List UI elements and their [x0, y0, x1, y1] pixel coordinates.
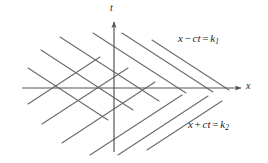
diagram-canvas — [0, 0, 268, 163]
upper-equals: = — [201, 32, 210, 44]
x-axis-label: x — [246, 80, 250, 91]
upper-operator: − — [183, 32, 192, 44]
lower-subscript: 2 — [225, 123, 229, 132]
characteristic-line — [62, 82, 155, 143]
lower-operator: + — [193, 118, 202, 130]
characteristic-line — [28, 57, 100, 104]
t-axis-label: t — [110, 2, 113, 13]
equation-label-upper: x−ct=k1 — [178, 32, 219, 44]
characteristic-line — [60, 37, 159, 101]
upper-subscript: 1 — [215, 37, 219, 46]
characteristic-line — [90, 95, 182, 155]
lower-lhs-var2: ct — [203, 118, 211, 130]
upper-lhs-var2: ct — [193, 32, 201, 44]
characteristic-family-x-minus-ct — [28, 33, 229, 120]
characteristics-diagram: t x x−ct=k1 x+ct=k2 — [0, 0, 268, 163]
characteristic-line — [41, 50, 133, 110]
characteristic-line — [152, 40, 229, 90]
characteristic-line — [28, 68, 108, 120]
characteristic-line — [93, 33, 186, 93]
lower-equals: = — [211, 118, 220, 130]
characteristic-family-x-plus-ct — [28, 57, 222, 155]
characteristic-line — [42, 68, 128, 124]
equation-label-lower: x+ct=k2 — [188, 118, 229, 130]
